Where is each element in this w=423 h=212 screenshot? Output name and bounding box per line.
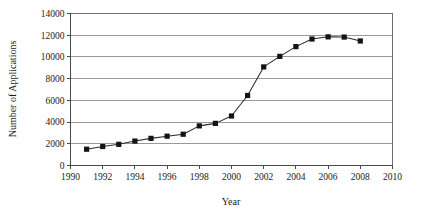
y-tick-label-10000: 10000 bbox=[41, 52, 65, 62]
data-point-1996 bbox=[165, 134, 170, 139]
data-point-2004 bbox=[293, 44, 298, 49]
chart-figure: 02000400060008000100001200014000 1990199… bbox=[0, 0, 423, 212]
data-point-2007 bbox=[342, 34, 347, 39]
x-tick-label-2008: 2008 bbox=[351, 172, 370, 182]
x-tick-label-2006: 2006 bbox=[319, 172, 338, 182]
data-series bbox=[84, 34, 363, 152]
y-tick-label-2000: 2000 bbox=[46, 139, 65, 149]
data-point-2006 bbox=[326, 34, 331, 39]
x-tick-label-1994: 1994 bbox=[125, 172, 144, 182]
x-tick-label-1996: 1996 bbox=[158, 172, 177, 182]
data-point-2005 bbox=[309, 36, 314, 41]
x-axis-title: Year bbox=[222, 196, 241, 207]
data-point-2002 bbox=[261, 64, 266, 69]
data-point-1991 bbox=[84, 147, 89, 152]
x-tick-label-2002: 2002 bbox=[254, 172, 273, 182]
data-point-1999 bbox=[213, 121, 218, 126]
data-point-2001 bbox=[245, 93, 250, 98]
y-axis-ticks: 02000400060008000100001200014000 bbox=[41, 9, 71, 171]
x-tick-label-1992: 1992 bbox=[93, 172, 112, 182]
y-tick-label-0: 0 bbox=[60, 161, 65, 171]
y-axis-title: Number of Applications bbox=[7, 41, 18, 138]
x-tick-label-2010: 2010 bbox=[383, 172, 402, 182]
x-tick-label-1990: 1990 bbox=[61, 172, 80, 182]
y-tick-label-8000: 8000 bbox=[46, 74, 65, 84]
data-point-1997 bbox=[181, 132, 186, 137]
data-point-2008 bbox=[358, 38, 363, 43]
x-tick-label-1998: 1998 bbox=[190, 172, 209, 182]
y-tick-label-12000: 12000 bbox=[41, 31, 65, 41]
x-tick-label-2004: 2004 bbox=[286, 172, 305, 182]
gridlines bbox=[71, 14, 393, 144]
data-point-1992 bbox=[100, 144, 105, 149]
data-point-2000 bbox=[229, 113, 234, 118]
data-point-1995 bbox=[148, 136, 153, 141]
data-point-1993 bbox=[116, 142, 121, 147]
data-point-1998 bbox=[197, 123, 202, 128]
data-point-2003 bbox=[277, 54, 282, 59]
y-tick-label-6000: 6000 bbox=[46, 96, 65, 106]
y-tick-label-14000: 14000 bbox=[41, 9, 65, 19]
applications-line-chart: 02000400060008000100001200014000 1990199… bbox=[0, 0, 423, 212]
x-tick-label-2000: 2000 bbox=[222, 172, 241, 182]
y-tick-label-4000: 4000 bbox=[46, 117, 65, 127]
series-line-0 bbox=[87, 37, 361, 149]
data-point-1994 bbox=[132, 138, 137, 143]
x-axis-ticks: 1990199219941996199820002002200420062008… bbox=[61, 166, 402, 182]
